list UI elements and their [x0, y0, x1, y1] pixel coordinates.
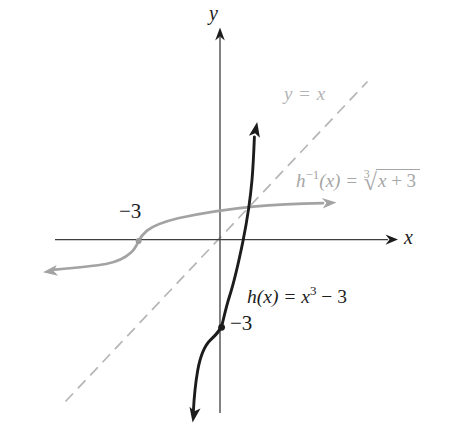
inverse-curve-label: h−1(x) = 3√x + 3 — [296, 169, 420, 194]
inverse-curve — [55, 203, 323, 269]
inverse-h: h — [296, 170, 306, 191]
neg3-y-intercept-label: −3 — [230, 312, 252, 334]
radicand: x + 3 — [376, 169, 420, 192]
inverse-exponent: −1 — [306, 167, 320, 182]
cubic-head: h(x) = x — [247, 286, 310, 307]
y-axis-label: y — [209, 3, 218, 24]
cubic-curve-top-arrow-icon — [249, 122, 260, 138]
inverse-mid: (x) = — [319, 170, 362, 191]
identity-x: x — [317, 83, 326, 104]
cubic-curve — [193, 137, 254, 411]
cubic-curve-label: h(x) = x3 − 3 — [247, 287, 347, 307]
cubic-y-intercept-point — [218, 324, 225, 331]
plot-canvas — [0, 0, 470, 444]
root-index: 3 — [364, 167, 370, 181]
inverse-x-intercept-point — [136, 238, 142, 244]
identity-line-label: y = x — [284, 84, 326, 104]
identity-eq: = — [293, 83, 316, 104]
neg3-x-intercept-label: −3 — [119, 200, 141, 222]
identity-line — [66, 82, 368, 402]
cubic-exponent: 3 — [310, 283, 317, 298]
cubic-curve-bottom-arrow-icon — [190, 407, 201, 423]
inverse-function-graph-figure: y x y = x h−1(x) = 3√x + 3 h(x) = x3 − 3… — [0, 0, 470, 444]
x-axis-label: x — [404, 227, 413, 248]
cubic-tail: − 3 — [316, 286, 347, 307]
radicand-tail: + 3 — [386, 170, 416, 191]
